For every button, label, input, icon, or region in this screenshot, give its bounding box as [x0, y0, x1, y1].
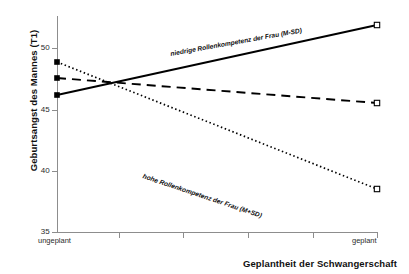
data-point-marker: [54, 92, 60, 98]
data-point-marker: [374, 22, 379, 27]
series-line-mittlere-rollenkompetenz: [57, 78, 377, 103]
data-point-marker: [374, 100, 379, 105]
data-point-marker: [374, 186, 379, 191]
series-line-hohe-rollenkompetenz: [57, 62, 377, 189]
x-axis-title: Geplantheit der Schwangerschaft: [243, 258, 397, 269]
series-line-niedrige-rollenkompetenz: [57, 25, 377, 95]
data-point-marker: [54, 75, 60, 81]
plot-area: [0, 0, 409, 274]
data-point-marker: [54, 59, 60, 65]
chart-figure: Geburtsangst des Mannes (T1) 50 45 40 35…: [0, 0, 409, 274]
